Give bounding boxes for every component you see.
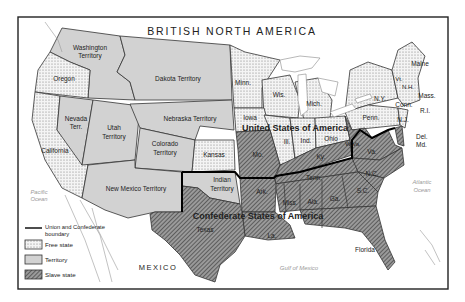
svg-text:Indian: Indian — [213, 176, 231, 183]
svg-text:Territory: Territory — [102, 133, 126, 141]
svg-text:Territory: Territory — [78, 52, 102, 60]
svg-text:Atlantic: Atlantic — [411, 179, 431, 185]
svg-text:Utah: Utah — [107, 124, 121, 131]
svg-text:N.H.: N.H. — [402, 84, 414, 90]
svg-text:R.I.: R.I. — [420, 107, 430, 114]
svg-text:N.C.: N.C. — [366, 170, 379, 177]
svg-text:California: California — [41, 147, 69, 154]
svg-text:Mass.: Mass. — [418, 92, 436, 99]
svg-text:Union and Confederate: Union and Confederate — [45, 224, 105, 230]
civil-war-map: BRITISH NORTH AMERICA Washington Territo… — [0, 0, 465, 302]
svg-text:Ark.: Ark. — [256, 188, 268, 195]
svg-text:Colorado: Colorado — [152, 140, 179, 147]
svg-text:MEXICO: MEXICO — [139, 263, 178, 272]
svg-text:Pacific: Pacific — [30, 189, 47, 195]
svg-text:Iowa: Iowa — [243, 114, 257, 121]
label-confederacy: Confederate States of America — [193, 211, 325, 221]
svg-text:Washington: Washington — [73, 44, 107, 52]
svg-text:Mo.: Mo. — [253, 151, 264, 158]
svg-text:W.Va.: W.Va. — [345, 141, 361, 147]
legend-territory-swatch — [25, 255, 42, 264]
svg-text:Kansas: Kansas — [203, 151, 225, 158]
svg-text:Territory: Territory — [45, 256, 68, 263]
svg-text:Ohio: Ohio — [324, 135, 338, 142]
label-union: United States of America — [242, 123, 349, 133]
svg-text:Ocean: Ocean — [30, 196, 47, 202]
svg-text:Ala.: Ala. — [307, 198, 318, 205]
svg-text:Md.: Md. — [416, 141, 427, 148]
svg-text:S.C.: S.C. — [357, 187, 370, 194]
label-british-north-america: BRITISH NORTH AMERICA — [147, 25, 316, 37]
svg-text:Territory: Territory — [210, 185, 234, 193]
svg-text:Va.: Va. — [367, 148, 376, 155]
svg-text:Texas: Texas — [197, 226, 215, 233]
svg-text:Oregon: Oregon — [53, 75, 75, 83]
svg-text:Ky.: Ky. — [317, 153, 326, 161]
svg-text:La.: La. — [267, 232, 276, 239]
svg-text:Florida: Florida — [355, 246, 375, 253]
legend-slave-swatch — [25, 270, 42, 279]
svg-text:Free state: Free state — [45, 241, 73, 248]
svg-text:Wis.: Wis. — [273, 91, 286, 98]
svg-text:Vt.: Vt. — [395, 76, 403, 82]
region-dakota — [117, 36, 232, 100]
svg-text:Ocean: Ocean — [413, 187, 430, 193]
svg-text:Terr.: Terr. — [70, 123, 83, 130]
svg-text:N.J.: N.J. — [397, 116, 409, 123]
svg-text:Nevada: Nevada — [65, 115, 88, 122]
svg-text:Dakota Territory: Dakota Territory — [155, 75, 202, 83]
svg-text:Minn.: Minn. — [235, 79, 251, 86]
region-ark — [240, 178, 276, 212]
svg-text:Territory: Territory — [153, 149, 177, 157]
svg-text:Miss.: Miss. — [282, 199, 297, 206]
svg-text:Gulf of Mexico: Gulf of Mexico — [280, 265, 319, 271]
svg-text:Conn.: Conn. — [395, 101, 413, 108]
svg-text:Del.: Del. — [416, 133, 428, 140]
svg-text:boundary: boundary — [45, 231, 69, 237]
svg-text:New Mexico Territory: New Mexico Territory — [106, 185, 167, 193]
legend-free-swatch — [25, 240, 42, 249]
svg-text:Ill.: Ill. — [284, 138, 291, 145]
svg-text:Maine: Maine — [411, 60, 429, 67]
svg-text:Penn.: Penn. — [363, 114, 380, 121]
svg-text:Ind.: Ind. — [301, 137, 312, 144]
svg-text:Ga.: Ga. — [330, 195, 341, 202]
svg-text:Mich.: Mich. — [306, 100, 322, 107]
svg-text:Slave state: Slave state — [45, 271, 76, 278]
svg-text:Nebraska Territory: Nebraska Territory — [164, 115, 218, 123]
svg-text:N.Y.: N.Y. — [374, 95, 386, 102]
svg-text:Tenn.: Tenn. — [306, 174, 322, 181]
